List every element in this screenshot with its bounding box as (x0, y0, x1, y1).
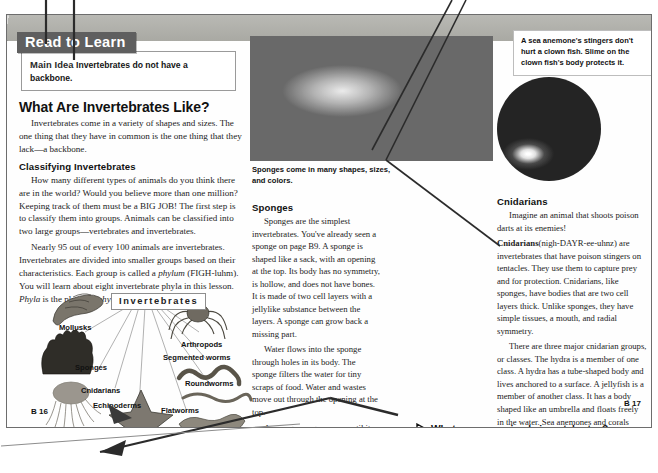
diagram-label-sponges: Sponges (75, 363, 107, 372)
sea-anemone-callout: A sea anemone's stingers don't hurt a cl… (513, 30, 652, 76)
left-body: Invertebrates come in a variety of shape… (19, 117, 243, 309)
intro-paragraph: Invertebrates come in a variety of shape… (19, 117, 243, 156)
left-column: Read to Learn Main Idea Invertebrates do… (15, 23, 247, 419)
sponges-heading: Sponges (252, 202, 382, 213)
main-idea-box: Main Idea Invertebrates do not have a ba… (21, 51, 236, 91)
sponges-paragraph-2: Water flows into the sponge through hole… (252, 343, 382, 418)
sponges-paragraph-3: A young sponge moves until it finds a pl… (252, 422, 382, 429)
middle-column: Sponges come in many shapes, sizes, and … (250, 15, 493, 419)
page-number-right: B 17 (624, 399, 641, 408)
section-title: What Are Invertebrates Like? (19, 99, 209, 115)
lesson-question-bar: What are some simple invertebrates? spon… (415, 419, 651, 428)
clownfish-anemone-photo (497, 77, 601, 181)
read-to-learn-banner: Read to Learn (17, 32, 136, 53)
diagram-label-arthropods: Arthropods (181, 340, 222, 349)
cnidarians-term: Cnidarians (497, 238, 539, 248)
invertebrate-classification-diagram: Invertebrates Mollusks (15, 288, 255, 428)
diagram-label-cnidarians: Cnidarians (81, 386, 120, 395)
cnidarians-paragraph-1-cont: are invertebrates that have poison sting… (497, 238, 641, 336)
page-spread-frame: Read to Learn Main Idea Invertebrates do… (6, 14, 652, 428)
play-triangle-icon (415, 423, 427, 428)
diagram-label-mollusks: Mollusks (59, 323, 92, 332)
diagram-label-roundworms: Roundworms (185, 379, 234, 388)
cnidarians-heading: Cnidarians (497, 196, 647, 207)
right-body: Cnidarians Imagine an animal that shoots… (497, 191, 647, 428)
diagram-label-flatworms: Flatworms (161, 406, 199, 415)
cnidarians-paragraph-2: There are three major cnidarian groups, … (497, 340, 647, 428)
subsection-title: Classifying Invertebrates (19, 161, 243, 172)
cnidarians-paragraph-1: Imagine an animal that shoots poison dar… (497, 209, 647, 234)
sponge-photo-caption: Sponges come in many shapes, sizes, and … (252, 165, 402, 187)
main-idea-label: Main Idea (30, 59, 74, 70)
pointer-arrowhead (100, 440, 126, 456)
cnidarians-pronunciation: (nigh-DAYR-ee-uhnz) (539, 238, 617, 248)
lesson-question: What are some simple invertebrates? (431, 424, 608, 428)
p2-phylum: phylum (158, 268, 185, 278)
sponges-paragraph-1: Sponges are the simplest invertebrates. … (252, 215, 382, 340)
paragraph-classify-1: How many different types of animals do y… (19, 174, 243, 239)
middle-body: Sponges Sponges are the simplest inverte… (252, 197, 382, 428)
cnidarians-paragraph-term: Cnidarians(nigh-DAYR-ee-uhnz) are invert… (497, 237, 647, 337)
cnidarians-lead: Imagine an animal that shoots poison dar… (497, 210, 639, 233)
diagram-root-invertebrates: Invertebrates (111, 293, 206, 310)
diagram-label-echinoderms: Echinoderms (93, 401, 141, 410)
diagram-label-segmented-worms: Segmented worms (163, 353, 231, 362)
textbook-page-spread: Read to Learn Main Idea Invertebrates do… (0, 0, 658, 473)
right-column: A sea anemone's stingers don't hurt a cl… (495, 15, 651, 419)
sponge-photo (250, 36, 493, 161)
